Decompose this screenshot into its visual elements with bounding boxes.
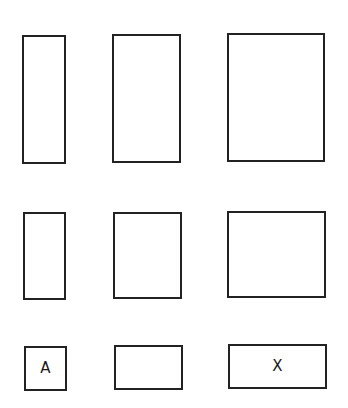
rect-r2-c1 xyxy=(23,212,66,300)
rect-r1-c1 xyxy=(22,35,66,164)
rect-r3-c2 xyxy=(114,345,183,390)
rect-r1-c2 xyxy=(112,34,181,163)
rect-label-a: A xyxy=(40,361,50,376)
rect-r3-c3-labeled-x: X xyxy=(228,344,327,389)
rect-r1-c3 xyxy=(227,33,325,162)
rect-label-x: X xyxy=(272,359,282,374)
rect-r2-c3 xyxy=(227,211,326,298)
rect-r2-c2 xyxy=(113,212,182,299)
rect-r3-c1-labeled-a: A xyxy=(24,346,67,391)
